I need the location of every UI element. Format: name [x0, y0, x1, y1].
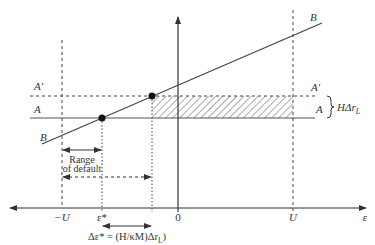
delta-epsilon-equation: Δε* = (H/κM)ΔrL) [88, 231, 167, 245]
tick-label-zero: 0 [175, 211, 181, 223]
default-range-diagram: A′ A B B A′ A HΔrL Range of default −U ε… [0, 0, 375, 245]
label-B-right: B [310, 11, 317, 23]
label-A-left: A [33, 103, 41, 115]
brace-icon [327, 96, 334, 118]
tick-label-U: U [289, 211, 298, 223]
label-B-left: B [40, 131, 47, 143]
axis-label-epsilon: ε [363, 211, 368, 223]
label-A-right: A [315, 103, 323, 115]
line-B [42, 23, 322, 144]
tick-label-minus-U: −U [54, 211, 70, 223]
range-of-default-label-2: of default [63, 163, 102, 174]
tick-label-epsilon-star: ε* [97, 211, 107, 223]
label-A-prime-right: A′ [310, 81, 321, 93]
hatched-region [152, 96, 293, 118]
point-B-A [99, 115, 106, 122]
label-A-prime-left: A′ [33, 80, 44, 92]
brace-label: HΔrL [336, 101, 361, 116]
point-B-A-prime [149, 93, 156, 100]
